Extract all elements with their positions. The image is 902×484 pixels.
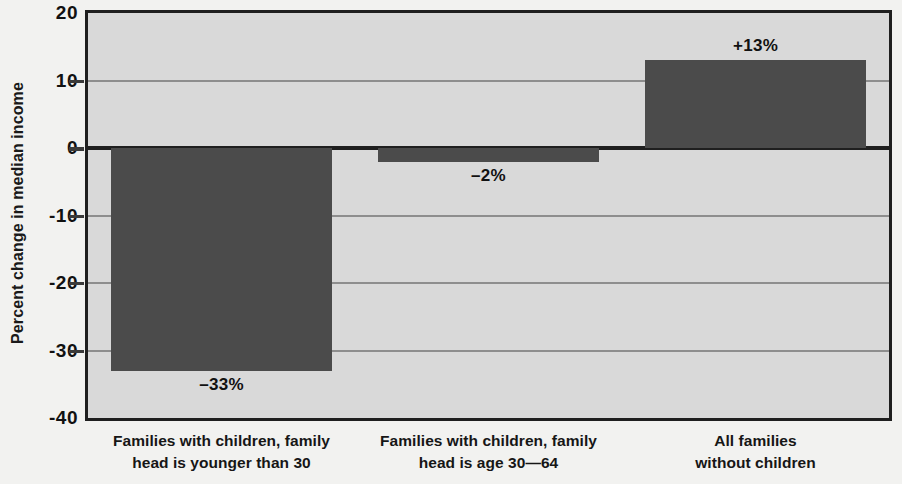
y-tick-label: 20 (12, 2, 78, 24)
x-axis-category-label: All familieswithout children (614, 430, 897, 475)
y-tick-mark (69, 215, 84, 218)
plot-area (85, 10, 892, 421)
y-tick-label: -40 (12, 407, 78, 429)
x-axis-category-label-line: Families with children, family (347, 430, 630, 452)
x-axis-category-label-line: head is younger than 30 (80, 452, 363, 474)
y-tick-mark (69, 282, 84, 285)
x-axis-category-label: Families with children, familyhead is yo… (80, 430, 363, 475)
bar-value-label: –2% (471, 166, 506, 186)
y-axis-ticks: 20100-10-20-30-40 (0, 0, 78, 484)
x-axis-category-label-line: Families with children, family (80, 430, 363, 452)
bar (111, 148, 331, 371)
y-tick-mark (69, 350, 84, 353)
x-axis-category-label: Families with children, familyhead is ag… (347, 430, 630, 475)
x-axis-category-label-line: All families (614, 430, 897, 452)
chart-figure: Percent change in median income 20100-10… (0, 0, 902, 484)
y-tick-mark (69, 147, 84, 151)
bar (645, 60, 865, 148)
x-axis-category-label-line: without children (614, 452, 897, 474)
x-axis-category-label-line: head is age 30—64 (347, 452, 630, 474)
x-axis-category-labels: Families with children, familyhead is yo… (85, 428, 892, 484)
y-tick-mark (69, 80, 84, 83)
bar (378, 148, 598, 162)
plot-inner (88, 13, 889, 418)
bar-value-label: +13% (733, 36, 778, 56)
bar-value-label: –33% (199, 375, 244, 395)
